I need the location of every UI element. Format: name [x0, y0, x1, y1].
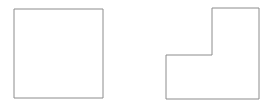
shapes-illustration — [0, 0, 268, 109]
square-shape[interactable] — [14, 9, 103, 98]
figure-canvas — [0, 0, 268, 109]
